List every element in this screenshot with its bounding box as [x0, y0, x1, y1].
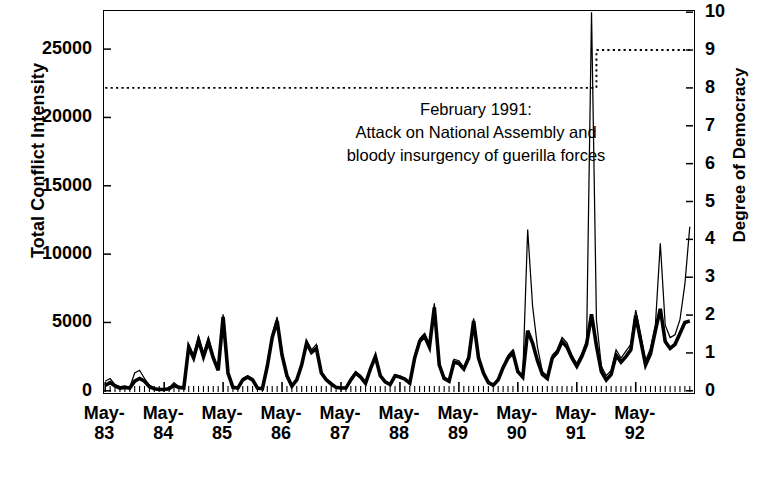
annotation-line-3: bloody insurgency of guerilla forces	[276, 144, 676, 167]
y-axis-left-tick-label: 0	[18, 379, 92, 400]
plot-area	[103, 10, 695, 394]
y-axis-right-tick-label: 7	[705, 114, 735, 135]
y-axis-right-tick-label: 0	[705, 379, 735, 400]
y-axis-left-tick-label: 15000	[18, 174, 92, 195]
y-axis-left-tick-label: 20000	[18, 106, 92, 127]
chart-figure: Total Conflict Intensity Degree of Democ…	[0, 0, 767, 503]
y-axis-left-tick-label: 25000	[18, 38, 92, 59]
y-axis-right-tick-label: 5	[705, 190, 735, 211]
annotation-line-1: February 1991:	[276, 98, 676, 121]
series-line-repression	[105, 307, 690, 389]
y-axis-right-tick-label: 3	[705, 266, 735, 287]
chart-canvas	[104, 11, 693, 392]
y-axis-right-tick-label: 6	[705, 152, 735, 173]
y-axis-right-tick-label: 9	[705, 39, 735, 60]
y-axis-left-tick-label: 5000	[18, 311, 92, 332]
y-axis-right-tick-label: 2	[705, 304, 735, 325]
chart-legend: Protest Democracy Repression	[0, 462, 767, 503]
x-axis-tick-label: May-92	[590, 403, 680, 443]
axis-tick-marks	[104, 12, 693, 392]
y-axis-right-tick-label: 1	[705, 341, 735, 362]
annotation-line-2: Attack on National Assembly and	[276, 121, 676, 144]
series-line-democracy	[105, 50, 690, 88]
annotation-feb-1991: February 1991: Attack on National Assemb…	[276, 98, 676, 166]
y-axis-right-tick-label: 4	[705, 228, 735, 249]
y-axis-left-tick-label: 10000	[18, 243, 92, 264]
y-axis-right-tick-label: 10	[705, 1, 735, 22]
series-line-protest	[105, 12, 690, 389]
y-axis-right-tick-label: 8	[705, 76, 735, 97]
